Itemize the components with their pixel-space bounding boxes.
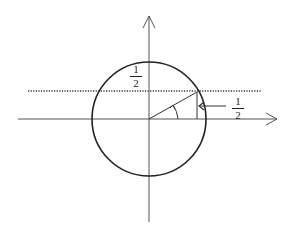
right-fraction-numerator: 1 [232,96,244,107]
top-fraction-numerator: 1 [130,64,142,75]
angle-arrow-icon [170,105,175,109]
right-fraction-label: 1 2 [232,96,244,121]
right-fraction-denominator: 2 [232,110,244,121]
top-fraction-denominator: 2 [130,78,142,89]
unit-circle-diagram [0,0,292,229]
top-fraction-label: 1 2 [130,64,142,89]
